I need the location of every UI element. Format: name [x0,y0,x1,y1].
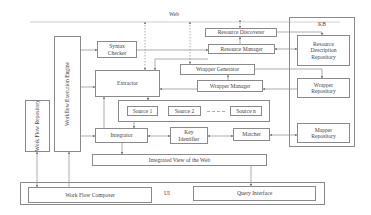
wrapper-generator-box: Wrapper Generator [180,64,255,75]
resource-manager-label: Resource Manager [220,46,262,52]
key-identifier-box: Key Identifier [170,127,208,144]
resource-manager-box: Resource Manager [208,44,275,54]
source-2-label: Source 2 [175,108,195,114]
key-identifier-label-line2: Identifier [179,136,200,142]
workflow-execution-engine-box: Workflow Execution Engine [54,36,81,152]
mapper-repository-box: Mapper Repository [297,123,350,143]
work-flow-composer-box: Work Flow Composer [28,187,152,203]
extractor-label: Extractor [117,80,138,86]
mapper-repository-label-line2: Repository [311,133,336,139]
matcher-box: Matcher [233,128,270,141]
integrated-view-label: Integrated View of the Web [149,157,210,163]
wrapper-repository-label-line2: Repository [311,88,336,94]
source-n-label: Source n [236,108,256,114]
source-1-label: Source 1 [133,108,153,114]
rdr-label-line3: Repository [311,54,336,60]
syntax-checker-label-line2: Checker [108,50,127,56]
extractor-box: Extractor [95,70,160,97]
resource-discoverer-label: Resource Discoverer [218,29,265,35]
resource-description-repository-box: Resource Description Repository [297,35,350,66]
work-flow-composer-label: Work Flow Composer [65,192,115,198]
workflow-execution-engine-label: Workflow Execution Engine [64,62,70,126]
integrator-box: Integrator [95,128,148,143]
source-2-box: Source 2 [168,106,201,116]
integrated-view-box: Integrated View of the Web [92,154,267,166]
kb-label: KB [318,21,326,27]
sources-ellipsis [207,111,225,112]
web-label: Web [169,11,179,17]
query-interface-box: Query Interface [193,186,316,201]
integrator-label: Integrator [110,132,132,138]
work-flow-repository-box: Work Flow Repository [25,100,50,152]
work-flow-repository-label: Work Flow Repository [34,100,40,151]
wrapper-generator-label: Wrapper Generator [196,66,239,72]
syntax-checker-box: Syntax Checker [97,41,137,58]
wrapper-manager-label: Wrapper Manager [210,83,251,89]
query-interface-label: Query Interface [237,190,272,196]
source-1-box: Source 1 [127,106,158,116]
matcher-label: Matcher [242,131,261,137]
wrapper-repository-box: Wrapper Repository [297,78,350,98]
source-n-box: Source n [230,106,262,116]
resource-discoverer-box: Resource Discoverer [205,28,277,37]
ui-label: UI [164,190,170,196]
wrapper-manager-box: Wrapper Manager [197,80,263,92]
architecture-diagram: Web Workflow Execution Engine Work Flow … [0,0,371,215]
